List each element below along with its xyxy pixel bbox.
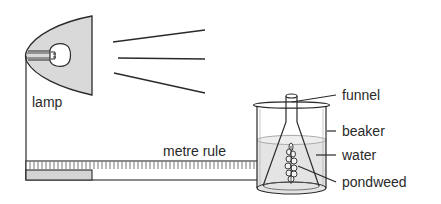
- light-rays: [113, 30, 205, 93]
- ruler-block: [26, 170, 92, 180]
- funnel-label: funnel: [342, 88, 380, 102]
- metre-rule-label: metre rule: [163, 144, 226, 158]
- water-label: water: [342, 148, 376, 162]
- bulb-icon: [50, 44, 71, 67]
- metre-rule: [26, 161, 258, 180]
- beaker-label: beaker: [342, 124, 385, 138]
- lamp: [26, 16, 93, 95]
- lamp-label: lamp: [32, 95, 62, 109]
- pondweed-label: pondweed: [342, 175, 407, 189]
